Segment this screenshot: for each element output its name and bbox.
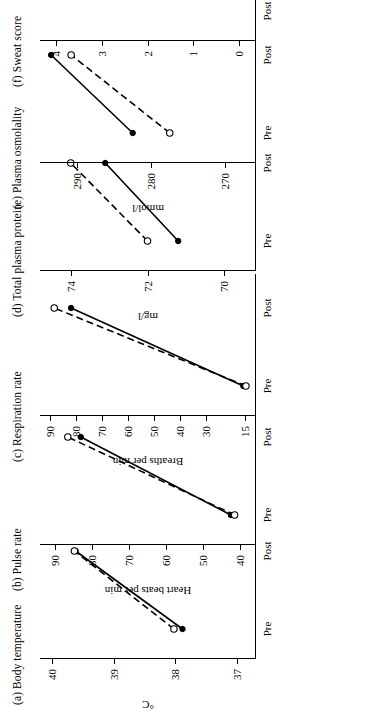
panel-a-plot [0,587,373,705]
panel-c: (c) Respiration rate9080706050403015Brea… [0,322,373,462]
panel-d-point-dashed-open [144,238,150,244]
panel-b-point-dashed-open [231,512,237,518]
panel-f: (f) Sweat score43210Post [0,2,373,87]
panel-b: (b) Pulse rate908070605040Heart beats pe… [0,458,373,591]
panel-b-plot [0,458,373,591]
panel-a: (a) Body temperature40393837°CPrePost [0,587,373,705]
multi-panel-figure: (a) Body temperature40393837°CPrePost(b)… [0,0,373,709]
panel-c-point-dashed-open [243,383,249,389]
panel-a-point-solid-filled [180,626,185,631]
panel-e: (e) Plasma osmolality290280270mmol/lPreP… [0,84,373,209]
panel-e-point-dashed-open [167,130,173,136]
panel-d-point-solid-filled [176,238,181,243]
panel-e-point-solid-filled [130,130,135,135]
panel-d: (d) Total plasma protein747270mg/lPrePos… [0,207,373,317]
panel-d-plot [0,207,373,317]
panel-a-point-dashed-open [171,626,177,632]
panel-container: (a) Body temperature40393837°CPrePost(b)… [0,0,373,709]
panel-c-plot [0,322,373,462]
panel-e-plot [0,84,373,209]
figure-rotation-wrapper: (a) Body temperature40393837°CPrePost(b)… [0,0,373,709]
panel-f-plot [0,0,373,69]
